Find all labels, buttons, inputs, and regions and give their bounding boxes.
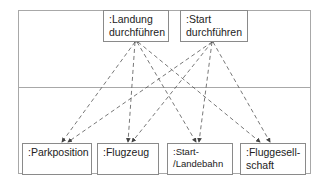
layer-divider: [18, 87, 311, 88]
object-parkposition: :Parkposition: [22, 143, 92, 175]
object-fluggesellschaft: :Fluggesell- schaft: [240, 143, 306, 175]
object-flugzeug: :Flugzeug: [97, 143, 159, 175]
object-landung-durchfuehren: :Landung durchführen: [103, 10, 169, 42]
object-start-durchfuehren: :Start durchführen: [180, 10, 248, 42]
object-start-landebahn: :Start- /Landebahn: [167, 143, 233, 175]
